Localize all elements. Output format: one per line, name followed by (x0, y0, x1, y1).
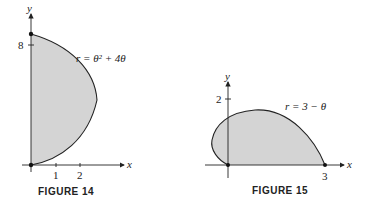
equation-label: r = θ² + 4θ (76, 52, 126, 64)
figure-14: y x 8 1 2 r = θ² + 4θ FIGURE 14 (18, 2, 132, 197)
x-tick-1: 1 (53, 169, 59, 181)
figure-15: y x 2 3 r = 3 − θ FIGURE 15 (205, 70, 352, 196)
origin-point (226, 163, 230, 167)
y-tick-8: 8 (18, 39, 24, 51)
x-tick-3: 3 (322, 170, 328, 182)
origin-point (29, 163, 33, 167)
endpoint (323, 163, 327, 167)
shaded-region (212, 110, 325, 165)
endpoint (29, 32, 33, 36)
figure-caption: FIGURE 14 (38, 186, 94, 197)
figures-canvas: y x 8 1 2 r = θ² + 4θ FIGURE 14 y x 2 3 … (0, 0, 370, 207)
y-axis-label: y (224, 70, 230, 82)
x-axis-label: x (126, 158, 132, 170)
x-tick-2: 2 (77, 169, 83, 181)
x-axis-label: x (346, 158, 352, 170)
equation-label: r = 3 − θ (285, 100, 327, 112)
y-tick-2: 2 (216, 93, 222, 105)
figure-caption: FIGURE 15 (252, 185, 308, 196)
y-axis-label: y (26, 2, 32, 14)
